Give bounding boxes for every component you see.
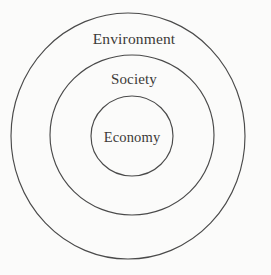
outer-circle-environment: [11, 13, 245, 259]
middle-circle-society: [50, 55, 214, 215]
diagram-canvas: [0, 0, 271, 275]
inner-circle-economy: [91, 96, 173, 176]
nested-circles-diagram: Environment Society Economy: [0, 0, 271, 275]
